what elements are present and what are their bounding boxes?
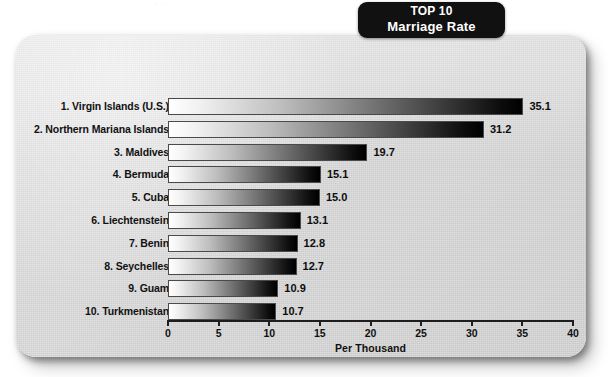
bar [168, 189, 320, 206]
bar-category-label: 5. Cuba [132, 188, 169, 206]
bar-row: 7. Benin12.8 [16, 234, 586, 257]
x-axis-tick [521, 320, 523, 326]
bar-value-label: 15.1 [327, 166, 348, 183]
bar-value-label: 31.2 [490, 121, 511, 138]
bar-category-label: 10. Turkmenistan [85, 302, 169, 320]
bar-row: 4. Bermuda15.1 [16, 165, 586, 188]
bar [168, 212, 301, 229]
bar-row: 1. Virgin Islands (U.S.)35.1 [16, 97, 586, 120]
x-axis-tick [167, 320, 169, 326]
bar [168, 303, 276, 320]
bar [168, 258, 297, 275]
bar-category-label: 7. Benin [129, 234, 169, 252]
bar-row: 5. Cuba15.0 [16, 188, 586, 211]
x-axis-tick [218, 320, 220, 326]
bar-row: 8. Seychelles12.7 [16, 257, 586, 280]
x-axis-tick-label: 0 [165, 327, 171, 339]
x-axis-tick-label: 10 [263, 327, 275, 339]
bar-value-label: 12.8 [304, 235, 325, 252]
bar-value-label: 15.0 [326, 189, 347, 206]
bar-category-label: 4. Bermuda [113, 165, 169, 183]
bar-category-label: 2. Northern Mariana Islands [34, 120, 169, 138]
bar-value-label: 35.1 [529, 98, 550, 115]
bar [168, 144, 367, 161]
bar [168, 98, 523, 115]
x-axis-tick [319, 320, 321, 326]
bar-value-label: 19.7 [373, 144, 394, 161]
banner-line-top: TOP 10 [358, 4, 505, 19]
bar-category-label: 6. Liechtenstein [91, 211, 169, 229]
x-axis-tick [370, 320, 372, 326]
x-axis-tick-label: 20 [365, 327, 377, 339]
bar-category-label: 1. Virgin Islands (U.S.) [61, 97, 169, 115]
bar-category-label: 8. Seychelles [104, 257, 169, 275]
bar-row: 3. Maldives19.7 [16, 143, 586, 166]
bar-row: 9. Guam10.9 [16, 279, 586, 302]
x-axis-tick-label: 25 [415, 327, 427, 339]
x-axis-tick-label: 30 [466, 327, 478, 339]
x-axis-tick-label: 5 [216, 327, 222, 339]
bar [168, 280, 278, 297]
bar [168, 235, 298, 252]
chart-card: 1. Virgin Islands (U.S.)35.12. Northern … [16, 35, 586, 357]
bar-row: 2. Northern Mariana Islands31.2 [16, 120, 586, 143]
bar-value-label: 10.7 [282, 303, 303, 320]
bar [168, 166, 321, 183]
x-axis-tick-label: 35 [517, 327, 529, 339]
x-axis-tick [572, 320, 574, 326]
banner-line-bottom: Marriage Rate [358, 19, 505, 35]
bar-value-label: 13.1 [307, 212, 328, 229]
scan-artifact-text: · · [155, 0, 275, 8]
bar-value-label: 12.7 [303, 258, 324, 275]
x-axis-tick [268, 320, 270, 326]
x-axis-tick-label: 15 [314, 327, 326, 339]
bar-category-label: 9. Guam [128, 279, 169, 297]
x-axis-title: Per Thousand [168, 342, 573, 354]
x-axis-tick [471, 320, 473, 326]
bar [168, 121, 484, 138]
bar-value-label: 10.9 [284, 280, 305, 297]
bar-row: 6. Liechtenstein13.1 [16, 211, 586, 234]
x-axis-tick-label: 40 [567, 327, 579, 339]
bar-chart-plot: 1. Virgin Islands (U.S.)35.12. Northern … [16, 35, 586, 357]
bar-category-label: 3. Maldives [114, 143, 169, 161]
title-banner: TOP 10 Marriage Rate [358, 2, 505, 38]
x-axis-tick [420, 320, 422, 326]
